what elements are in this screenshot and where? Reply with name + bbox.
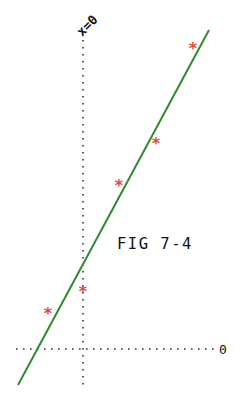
data-markers: ***** (44, 39, 198, 323)
horizontal-axis-label: 0 (219, 342, 227, 357)
star-marker-icon: * (79, 282, 88, 301)
vertical-axis-label: x=0 (74, 12, 101, 39)
star-marker-icon: * (189, 39, 198, 58)
chart-canvas: ***** x=0 0 FIG 7-4 (0, 0, 239, 412)
star-marker-icon: * (115, 176, 124, 195)
fit-line (18, 30, 209, 385)
star-marker-icon: * (152, 134, 161, 153)
figure-label: FIG 7-4 (117, 235, 193, 253)
star-marker-icon: * (44, 304, 53, 323)
